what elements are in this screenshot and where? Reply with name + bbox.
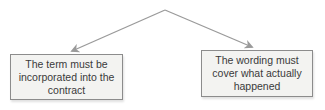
edge-apex-to-left-box [72, 10, 165, 51]
decision-tree-diagram: The term must be incorporated into the c… [0, 0, 325, 110]
box-wording-covers: The wording must cover what actually hap… [201, 50, 313, 97]
edge-apex-to-right-box [165, 10, 252, 47]
box-term-incorporated-label: The term must be incorporated into the c… [17, 58, 116, 97]
box-term-incorporated: The term must be incorporated into the c… [10, 54, 123, 100]
box-wording-covers-label: The wording must cover what actually hap… [208, 54, 306, 93]
